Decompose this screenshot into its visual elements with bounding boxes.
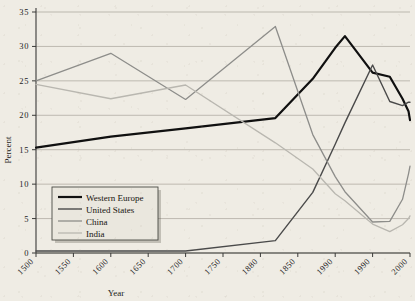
chart-figure: 05101520253035 1500155016001650170017501… (0, 0, 415, 301)
x-tick-label: 1750 (202, 256, 222, 276)
y-tick-label: 20 (19, 110, 29, 120)
y-axis-ticks: 05101520253035 (19, 7, 36, 258)
legend-label: India (86, 229, 105, 239)
legend-label: United States (86, 205, 135, 215)
y-tick-label: 15 (19, 145, 29, 155)
x-tick-label: 1650 (127, 256, 147, 276)
x-tick-label: 1500 (15, 256, 35, 276)
x-tick-label: 1990 (352, 256, 372, 276)
x-axis-title: Year (108, 288, 125, 298)
series-line-western-europe (36, 36, 410, 148)
y-tick-label: 10 (19, 179, 29, 189)
y-tick-label: 30 (19, 41, 29, 51)
legend-label: Western Europe (86, 193, 144, 203)
y-tick-label: 35 (19, 7, 29, 17)
x-tick-label: 1600 (90, 256, 110, 276)
chart-legend: Western EuropeUnited StatesChinaIndia (52, 187, 161, 243)
x-tick-label: 1990 (314, 256, 334, 276)
legend-label: China (86, 217, 108, 227)
x-tick-label: 1880 (240, 256, 260, 276)
y-tick-label: 25 (19, 76, 29, 86)
line-chart-plot: 05101520253035 1500155016001650170017501… (0, 0, 415, 301)
x-tick-label: 1700 (165, 256, 185, 276)
x-tick-label: 2000 (389, 256, 409, 276)
x-axis-ticks: 1500155016001650170017501880185019901990… (15, 253, 410, 277)
x-tick-label: 1550 (53, 256, 73, 276)
y-axis-title: Percent (3, 136, 13, 163)
y-tick-label: 5 (24, 214, 29, 224)
x-tick-label: 1850 (277, 256, 297, 276)
